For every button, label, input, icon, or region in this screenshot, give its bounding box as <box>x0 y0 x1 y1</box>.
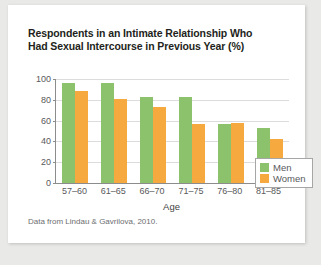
bar-men <box>62 83 75 183</box>
bar-men <box>179 97 192 183</box>
figure-card: Respondents in an Intimate Relationship … <box>8 5 305 243</box>
chart-title-line-1: Respondents in an Intimate Relationship … <box>28 27 290 40</box>
x-tick-label: 71–75 <box>172 186 210 196</box>
x-tick-label: 81–85 <box>250 186 288 196</box>
bar-women <box>75 91 88 183</box>
x-tick-label: 61–65 <box>94 186 132 196</box>
legend-item-women: Women <box>260 173 306 184</box>
y-tick-label-100: 100 <box>36 74 51 84</box>
legend-swatch-men-icon <box>260 163 269 172</box>
y-tick-label-40: 40 <box>41 136 51 146</box>
bar-men <box>140 97 153 183</box>
chart-title: Respondents in an Intimate Relationship … <box>28 27 290 53</box>
x-axis-title: Age <box>55 201 288 212</box>
legend-item-men: Men <box>260 162 306 173</box>
y-tick-label-0: 0 <box>46 178 51 188</box>
bar-women <box>114 99 127 183</box>
bar-men <box>101 83 114 183</box>
bar-group <box>179 79 205 183</box>
chart-legend: Men Women <box>255 158 313 188</box>
plot-area: 100 80 60 40 20 0 <box>55 79 289 184</box>
source-note: Data from Lindau & Gavrilova, 2010. <box>28 217 157 226</box>
x-axis-tick-labels: 57–60 61–65 66–70 71–75 76–80 81–85 <box>55 186 288 196</box>
legend-label-men: Men <box>273 162 291 173</box>
y-tick-label-80: 80 <box>41 95 51 105</box>
bar-women <box>153 107 166 183</box>
x-tick-label: 66–70 <box>133 186 171 196</box>
legend-label-women: Women <box>273 173 306 184</box>
y-tick-mark-0 <box>53 183 57 184</box>
bar-women <box>192 124 205 183</box>
bar-group <box>218 79 244 183</box>
bar-group <box>62 79 88 183</box>
y-tick-label-20: 20 <box>41 157 51 167</box>
x-tick-label: 57–60 <box>55 186 93 196</box>
x-tick-label: 76–80 <box>211 186 249 196</box>
bar-men <box>218 124 231 183</box>
legend-swatch-women-icon <box>260 174 269 183</box>
chart-title-line-2: Had Sexual Intercourse in Previous Year … <box>28 40 290 53</box>
bar-group <box>101 79 127 183</box>
y-tick-label-60: 60 <box>41 116 51 126</box>
bar-group <box>140 79 166 183</box>
bar-women <box>231 123 244 183</box>
